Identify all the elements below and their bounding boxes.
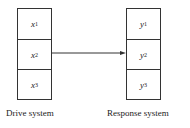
arrow-head-icon: [120, 51, 126, 55]
drive-system-label: Drive system: [6, 108, 54, 118]
response-system-label: Response system: [107, 108, 169, 118]
